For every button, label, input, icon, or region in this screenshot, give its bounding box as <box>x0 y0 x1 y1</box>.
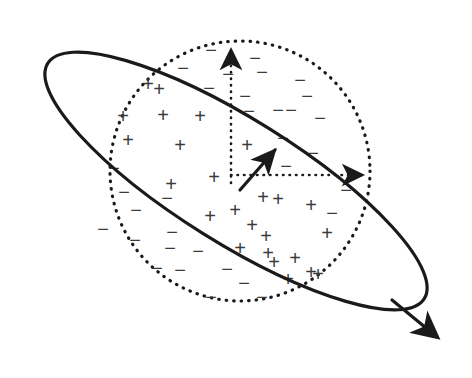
minus-charge-glyph: − <box>192 240 204 262</box>
figure-root: +++++++++++++++++++++++++−−−−−−−−−−−−−−−… <box>0 0 472 378</box>
minus-charge-glyph: − <box>301 85 313 107</box>
minus-charge-glyph: − <box>205 286 217 308</box>
plus-charge-glyph: + <box>257 186 269 208</box>
minus-charge-glyph: − <box>177 57 189 79</box>
minus-charge-glyph: − <box>256 61 268 83</box>
plus-charge-glyph: + <box>229 199 241 221</box>
plus-charge-glyph: + <box>208 166 220 188</box>
plus-charge-glyph: + <box>157 104 169 126</box>
minus-charge-glyph: − <box>272 99 284 121</box>
minus-charge-glyph: − <box>130 199 142 221</box>
minus-charge-glyph: − <box>97 218 109 240</box>
minus-charge-glyph: − <box>118 181 130 203</box>
plus-charge-glyph: + <box>122 129 134 151</box>
minus-charge-glyph: − <box>285 99 297 121</box>
minus-charge-glyph: − <box>221 258 233 280</box>
plus-charge-glyph: + <box>142 73 154 95</box>
plus-charge-glyph: + <box>305 194 317 216</box>
minus-charge-glyph: − <box>238 272 250 294</box>
plus-charge-glyph: + <box>174 134 186 156</box>
background <box>0 0 472 378</box>
minus-charge-glyph: − <box>326 202 338 224</box>
minus-charge-glyph: − <box>151 257 163 279</box>
plus-charge-glyph: + <box>117 105 129 127</box>
plus-charge-glyph: + <box>241 134 253 156</box>
plus-charge-glyph: + <box>153 78 165 100</box>
plus-charge-glyph: + <box>246 214 258 236</box>
plus-charge-glyph: + <box>312 263 324 285</box>
minus-charge-glyph: − <box>280 155 292 177</box>
minus-charge-glyph: − <box>314 107 326 129</box>
plus-charge-glyph: + <box>194 105 206 127</box>
minus-charge-glyph: − <box>256 286 268 308</box>
minus-charge-glyph: − <box>129 229 141 251</box>
plus-charge-glyph: + <box>289 247 301 269</box>
minus-charge-glyph: − <box>164 237 176 259</box>
minus-charge-glyph: − <box>205 39 217 61</box>
plus-charge-glyph: + <box>204 205 216 227</box>
diagram-canvas: +++++++++++++++++++++++++−−−−−−−−−−−−−−−… <box>0 0 472 378</box>
plus-charge-glyph: + <box>272 188 284 210</box>
plus-charge-glyph: + <box>321 222 333 244</box>
minus-charge-glyph: − <box>174 259 186 281</box>
